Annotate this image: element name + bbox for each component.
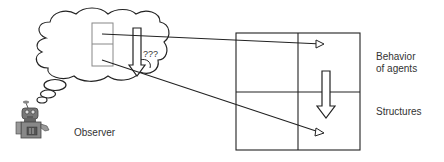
down-arrow-icon <box>317 71 335 118</box>
observer-label: Observer <box>74 127 115 139</box>
behavior-of-agents-label: Behavior of agents <box>376 51 417 75</box>
behavior-line-2: of agents <box>376 63 417 75</box>
structures-label: Structures <box>376 106 422 118</box>
arrowhead-structures <box>315 128 324 136</box>
behavior-line-1: Behavior <box>376 51 417 63</box>
robot-observer-icon <box>16 101 49 139</box>
big-grid <box>236 33 360 150</box>
arrowhead-behavior <box>316 40 324 48</box>
question-marks-label: ??? <box>143 48 158 60</box>
diagram-canvas: ??? Behavior of agents Structures Observ… <box>0 0 444 162</box>
